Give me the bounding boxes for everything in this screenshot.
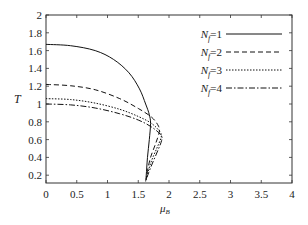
legend-label: Nf=4 [200,82,223,97]
plot-border [46,15,292,183]
y-tick-label: 0.6 [28,134,42,146]
x-tick-label: 2 [166,188,172,200]
y-tick-label: 0.4 [28,151,42,163]
legend-label: Nf=1 [200,28,222,43]
x-tick-label: 4 [289,188,295,200]
y-tick-label: 0.2 [28,169,42,181]
legend-label: Nf=2 [200,46,222,61]
x-tick-label: 3 [228,188,234,200]
y-tick-label: 0.8 [28,116,42,128]
y-tick-label: 1.2 [28,80,42,92]
phase-diagram-chart: 00.511.522.533.540.20.40.60.811.21.41.61… [0,0,308,225]
x-tick-label: 1.5 [131,188,145,200]
x-tick-label: 3.5 [254,188,268,200]
x-tick-label: 1 [105,188,111,200]
y-tick-label: 1.6 [28,45,42,57]
y-tick-label: 2 [37,9,43,21]
plot-frame [46,15,292,183]
series-line-nf3 [46,99,162,180]
series-line-nf4 [46,104,162,180]
series-layer [46,44,162,181]
x-tick-label: 0.5 [70,188,84,200]
y-axis-label: T [14,92,22,106]
y-tick-label: 1 [37,98,43,110]
y-tick-label: 1.8 [28,27,42,39]
series-line-nf2 [46,84,160,179]
x-tick-label: 0 [43,188,49,200]
series-line-nf1 [46,44,151,181]
legend: Nf=1Nf=2Nf=3Nf=4 [200,28,282,97]
axis-ticks: 00.511.522.533.540.20.40.60.811.21.41.61… [28,9,295,200]
x-tick-label: 2.5 [193,188,207,200]
y-tick-label: 1.4 [28,62,42,74]
legend-label: Nf=3 [200,64,223,79]
x-axis-label: μB [159,202,171,216]
